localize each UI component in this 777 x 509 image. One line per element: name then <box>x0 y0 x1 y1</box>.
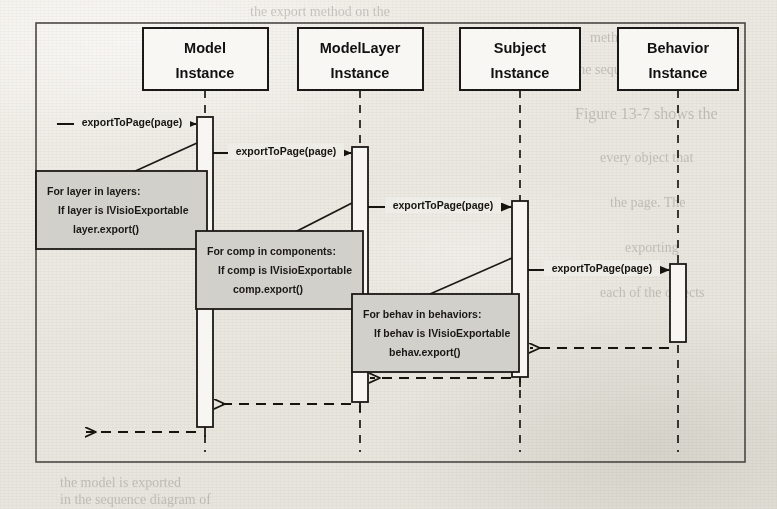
lifeline-header-model-line1: Model <box>184 40 226 56</box>
note-model-line1: For layer in layers: <box>47 185 140 197</box>
note-subject-line3: behav.export() <box>389 346 461 358</box>
lifeline-header-modellayer: ModelLayer Instance <box>298 28 423 90</box>
lifeline-header-subject-line2: Instance <box>491 65 550 81</box>
message-m2-label: exportToPage(page) <box>236 145 337 157</box>
lifeline-header-model: Model Instance <box>143 28 268 90</box>
activation-bar-behavior <box>670 264 686 342</box>
message-m3: exportToPage(page) <box>368 197 511 213</box>
lifeline-header-behavior-line2: Instance <box>649 65 708 81</box>
lifeline-header-subject-line1: Subject <box>494 40 547 56</box>
lifeline-header-modellayer-line2: Instance <box>331 65 390 81</box>
note-subject: For behav in behaviors: If behav is IVis… <box>352 294 519 372</box>
message-m3-label: exportToPage(page) <box>393 199 494 211</box>
lifeline-header-subject: Subject Instance <box>460 28 580 90</box>
lifeline-header-behavior: Behavior Instance <box>618 28 738 90</box>
lifeline-header-behavior-line1: Behavior <box>647 40 709 56</box>
note-modellayer-line3: comp.export() <box>233 283 303 295</box>
lifeline-header-model-line2: Instance <box>176 65 235 81</box>
note-model: For layer in layers: If layer is IVisioE… <box>36 171 207 249</box>
note-model-line3: layer.export() <box>73 223 139 235</box>
note-model-line2: If layer is IVisioExportable <box>58 204 189 216</box>
note-modellayer: For comp in components: If comp is IVisi… <box>196 231 363 309</box>
message-m4: exportToPage(page) <box>528 260 669 276</box>
lifeline-header-modellayer-line1: ModelLayer <box>320 40 401 56</box>
note-subject-line2: If behav is IVisioExportable <box>374 327 511 339</box>
note-subject-line1: For behav in behaviors: <box>363 308 481 320</box>
message-m4-label: exportToPage(page) <box>552 262 653 274</box>
note-modellayer-line2: If comp is IVisioExportable <box>218 264 352 276</box>
message-m1-label: exportToPage(page) <box>82 116 183 128</box>
note-modellayer-line1: For comp in components: <box>207 245 336 257</box>
sequence-diagram-canvas: Model Instance ModelLayer Instance Subje… <box>0 0 777 509</box>
message-m1: exportToPage(page) <box>57 114 196 130</box>
message-m2: exportToPage(page) <box>213 143 351 159</box>
